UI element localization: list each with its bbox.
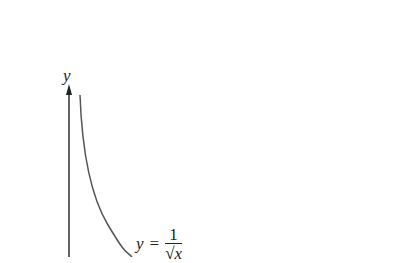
fraction: 1 √x — [165, 226, 182, 262]
fraction-numerator: 1 — [165, 226, 182, 244]
curve-equation: y = 1 √x — [136, 226, 182, 262]
curve-inverse-sqrt — [80, 95, 132, 257]
equals-sign: = — [150, 234, 160, 254]
fraction-denominator: √x — [165, 244, 182, 262]
y-axis — [66, 84, 72, 257]
y-axis-label: y — [63, 66, 71, 86]
equation-lhs: y — [136, 234, 144, 254]
